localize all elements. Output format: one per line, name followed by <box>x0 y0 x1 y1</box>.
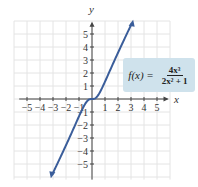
function-plot: xy−5−4−3−2−112345−5−4−3−2−112345 <box>0 0 198 187</box>
formula-callout: f(x) = 4x³ 2x² + 1 <box>123 58 195 92</box>
x-tick-label: −3 <box>48 102 59 113</box>
y-tick-label: −3 <box>77 133 88 144</box>
y-axis-arrow-icon <box>90 22 95 27</box>
x-axis-arrow-icon <box>164 97 169 102</box>
y-tick-label: −4 <box>77 146 88 157</box>
formula-lhs: f(x) = <box>128 69 153 81</box>
x-tick-label: 2 <box>116 102 121 113</box>
y-axis-label: y <box>88 3 94 15</box>
y-tick-label: 3 <box>83 55 88 66</box>
y-tick-label: −5 <box>77 159 88 170</box>
x-tick-label: 4 <box>142 102 147 113</box>
y-tick-label: 1 <box>83 81 88 92</box>
x-tick-label: −5 <box>22 102 33 113</box>
formula-numerator: 4x³ <box>167 65 183 76</box>
y-tick-label: 4 <box>83 42 88 53</box>
y-tick-label: −2 <box>77 120 88 131</box>
x-tick-label: −4 <box>35 102 46 113</box>
y-tick-label: 5 <box>83 29 88 40</box>
x-tick-label: −2 <box>61 102 72 113</box>
formula-denominator: 2x² + 1 <box>160 76 190 86</box>
x-tick-label: 5 <box>155 102 160 113</box>
x-axis-label: x <box>173 93 179 105</box>
y-tick-label: 2 <box>83 68 88 79</box>
x-tick-label: 3 <box>129 102 134 113</box>
formula-fraction: 4x³ 2x² + 1 <box>160 65 190 86</box>
x-tick-label: 1 <box>103 102 108 113</box>
